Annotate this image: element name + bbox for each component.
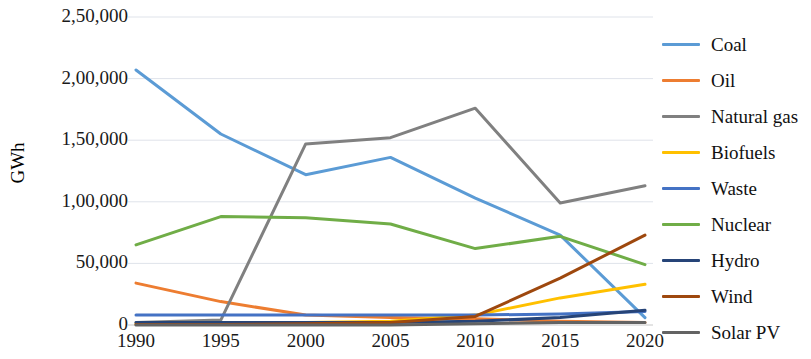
legend-item-oil[interactable]: Oil <box>662 62 811 98</box>
x-axis-tick-label: 2005 <box>356 330 426 352</box>
legend-item-biofuels[interactable]: Biofuels <box>662 134 811 170</box>
legend-item-label: Coal <box>711 35 747 54</box>
legend-item-label: Nuclear <box>711 215 771 234</box>
x-axis-tick-label: 2000 <box>271 330 341 352</box>
legend-item-label: Hydro <box>711 251 760 270</box>
x-axis-tick-label: 2010 <box>440 330 510 352</box>
series-line-coal <box>136 70 645 318</box>
legend-swatch-icon <box>662 43 700 46</box>
legend-swatch-icon <box>662 223 700 226</box>
legend-swatch-icon <box>662 187 700 190</box>
legend-swatch-icon <box>662 295 700 298</box>
series-line-wind <box>136 235 645 324</box>
legend-item-waste[interactable]: Waste <box>662 170 811 206</box>
x-axis-tick-label: 1995 <box>186 330 256 352</box>
legend-item-label: Oil <box>711 71 735 90</box>
legend-swatch-icon <box>662 259 700 262</box>
line-chart: GWh 050,0001,00,0001,50,0002,00,0002,50,… <box>0 0 811 359</box>
series-line-waste <box>136 311 645 315</box>
legend-item-label: Waste <box>711 179 757 198</box>
legend-swatch-icon <box>662 79 700 82</box>
legend-item-wind[interactable]: Wind <box>662 278 811 314</box>
legend-item-solar-pv[interactable]: Solar PV <box>662 314 811 350</box>
legend-item-label: Biofuels <box>711 143 775 162</box>
legend-swatch-icon <box>662 115 700 118</box>
legend-item-label: Solar PV <box>711 323 780 342</box>
x-axis-tick-label: 2015 <box>525 330 595 352</box>
legend-item-coal[interactable]: Coal <box>662 26 811 62</box>
chart-legend: CoalOilNatural gasBiofuelsWasteNuclearHy… <box>662 26 811 350</box>
legend-item-label: Wind <box>711 287 752 306</box>
legend-item-nuclear[interactable]: Nuclear <box>662 206 811 242</box>
legend-swatch-icon <box>662 331 700 334</box>
series-line-nuclear <box>136 217 645 265</box>
legend-item-label: Natural gas <box>711 107 798 126</box>
legend-item-natural-gas[interactable]: Natural gas <box>662 98 811 134</box>
legend-item-hydro[interactable]: Hydro <box>662 242 811 278</box>
x-axis-tick-label: 1990 <box>101 330 171 352</box>
legend-swatch-icon <box>662 151 700 154</box>
